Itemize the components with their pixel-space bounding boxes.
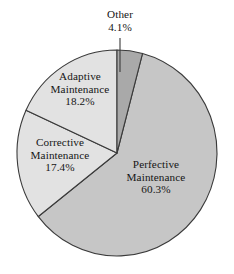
slice-label-corrective-percent: 17.4%: [16, 161, 104, 174]
slice-label-adaptive-line2: Maintenance: [38, 83, 122, 96]
slice-label-perfective-line2: Maintenance: [112, 171, 200, 184]
slice-label-corrective-line1: Corrective: [16, 136, 104, 149]
pie-chart: Other 4.1% Adaptive Maintenance 18.2% Co…: [0, 0, 234, 274]
slice-label-adaptive-percent: 18.2%: [38, 95, 122, 108]
slice-label-adaptive-line1: Adaptive: [38, 70, 122, 83]
slice-label-corrective-maintenance: Corrective Maintenance 17.4%: [16, 136, 104, 174]
slice-label-adaptive-maintenance: Adaptive Maintenance 18.2%: [38, 70, 122, 108]
slice-label-perfective-line1: Perfective: [112, 158, 200, 171]
slice-label-other-percent: 4.1%: [85, 21, 155, 34]
slice-label-perfective-percent: 60.3%: [112, 183, 200, 196]
slice-label-other: Other 4.1%: [85, 8, 155, 33]
slice-label-other-name: Other: [85, 8, 155, 21]
slice-label-perfective-maintenance: Perfective Maintenance 60.3%: [112, 158, 200, 196]
slice-label-corrective-line2: Maintenance: [16, 149, 104, 162]
